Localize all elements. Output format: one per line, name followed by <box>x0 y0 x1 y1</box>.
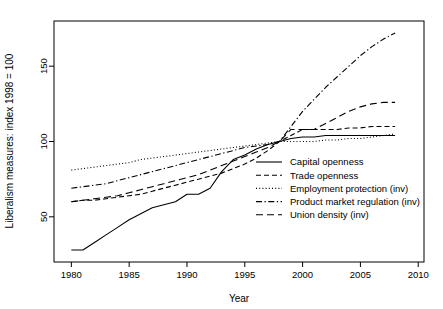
x-tick-label: 2005 <box>350 269 371 280</box>
plot-frame <box>54 21 424 262</box>
x-tick-label: 1990 <box>176 269 197 280</box>
legend-label-4: Product market regulation (inv) <box>290 196 420 207</box>
chart-container: 1980198519901995200020052010 50100150 Ca… <box>0 0 443 309</box>
x-tick-label: 2010 <box>408 269 429 280</box>
plot-frame-rect <box>54 21 424 262</box>
line-chart: 1980198519901995200020052010 50100150 Ca… <box>0 0 443 309</box>
x-tick-label: 1985 <box>119 269 140 280</box>
legend-label-2: Trade openness <box>290 170 359 181</box>
y-tick-label: 100 <box>38 134 49 150</box>
legend-label-3: Employment protection (inv) <box>290 183 408 194</box>
chart-legend: Capital opennessTrade opennessEmployment… <box>256 156 420 220</box>
y-tick-label: 150 <box>38 58 49 74</box>
y-axis-ticks: 50100150 <box>38 58 54 222</box>
x-tick-label: 2000 <box>292 269 313 280</box>
y-axis-title: Liberalism measures: index 1998 = 100 <box>4 53 15 228</box>
x-axis-ticks: 1980198519901995200020052010 <box>61 262 429 280</box>
x-tick-label: 1980 <box>61 269 82 280</box>
y-tick-label: 50 <box>38 212 49 223</box>
legend-label-5: Union density (inv) <box>290 209 369 220</box>
x-tick-label: 1995 <box>234 269 255 280</box>
legend-label-1: Capital openness <box>290 156 364 167</box>
x-axis-title: Year <box>229 293 250 304</box>
